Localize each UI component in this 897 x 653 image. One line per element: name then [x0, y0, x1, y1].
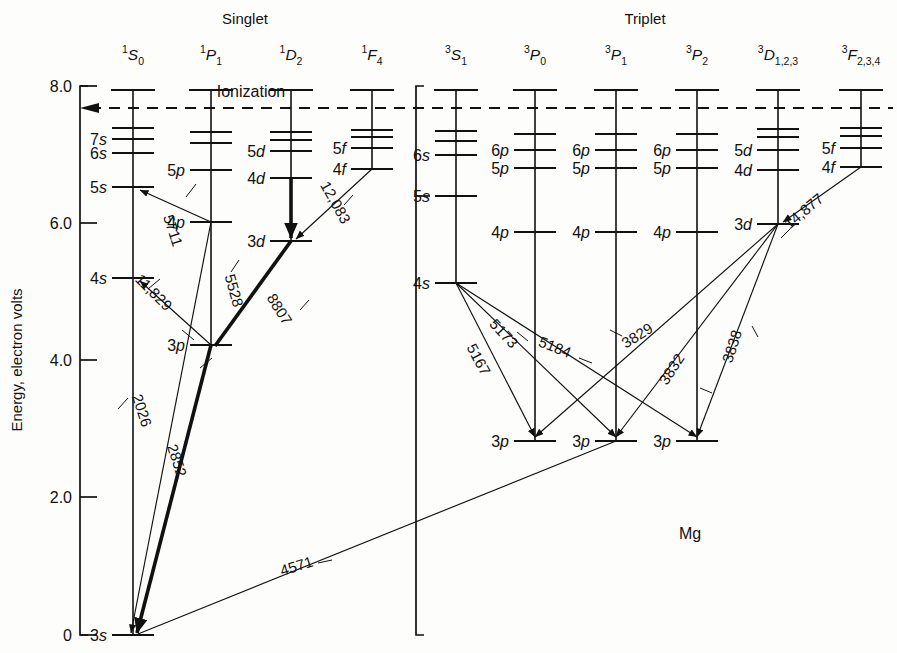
y-tick-label-2: 2.0: [50, 489, 72, 506]
column-header-1F4: 1F4: [361, 43, 382, 67]
y-tick-label-6: 6.0: [50, 215, 72, 232]
wavelength-label-3832: 3832: [655, 350, 687, 387]
level-label-3F234-5f: 5f: [822, 140, 837, 157]
level-label-3P1-3p: 3p: [572, 433, 590, 450]
level-label-3P0-6p: 6p: [491, 142, 509, 159]
column-header-1P1: 1P1: [200, 43, 222, 67]
level-label-3P0-3p: 3p: [491, 433, 509, 450]
level-label-3P1-4p: 4p: [572, 224, 590, 241]
transition-4571: [138, 441, 616, 634]
group-label-singlet: Singlet: [222, 10, 269, 27]
level-label-3P1-5p: 5p: [572, 160, 590, 177]
transition-2852: [137, 345, 211, 633]
level-label-1S0-5s: 5s: [90, 179, 107, 196]
wavelength-label-3838: 3838: [719, 328, 745, 365]
ionization-label: Ionization: [217, 83, 286, 100]
wavelength-label-14877: 14,877: [780, 190, 826, 233]
level-label-1S0-3s: 3s: [90, 627, 107, 644]
wavelength-label-5184: 5184: [536, 333, 573, 361]
column-header-3F234: 3F2,3,4: [842, 43, 881, 67]
wavelength-label-11829: 11,829: [132, 270, 176, 314]
y-tick-label-8: 8.0: [50, 78, 72, 95]
level-label-3P2-6p: 6p: [653, 142, 671, 159]
wavelength-label-4571: 4571: [278, 553, 315, 579]
level-label-3S1-5s: 5s: [413, 188, 430, 205]
level-label-3P0-5p: 5p: [491, 160, 509, 177]
level-label-3P0-4p: 4p: [491, 224, 509, 241]
column-header-3P1: 3P1: [605, 43, 627, 67]
level-label-3P2-3p: 3p: [653, 433, 671, 450]
level-label-3D123-5d: 5d: [734, 142, 753, 159]
transition-3838: [697, 224, 778, 437]
wavelength-labels-layer: 571111,829202628525528880712,08351675173…: [129, 178, 827, 579]
level-label-1D2-3d: 3d: [247, 233, 266, 250]
energy-level-diagram-svg: Singlet Triplet Energy, electron volts 8…: [0, 0, 897, 653]
level-label-3D123-4d: 4d: [734, 162, 753, 179]
wavelength-label-3829: 3829: [618, 319, 655, 351]
level-label-1D2-4d: 4d: [247, 170, 266, 187]
level-label-3P1-6p: 6p: [572, 142, 590, 159]
wavelength-label-5528: 5528: [222, 272, 248, 309]
level-label-3P2-4p: 4p: [653, 224, 671, 241]
grotrian-diagram: Singlet Triplet Energy, electron volts 8…: [0, 0, 897, 653]
y-axis-label: Energy, electron volts: [8, 288, 25, 431]
y-tick-label-4: 4.0: [50, 352, 72, 369]
level-label-3F234-4f: 4f: [822, 159, 837, 176]
level-label-1D2-5d: 5d: [247, 143, 266, 160]
level-label-1F4-5f: 5f: [333, 140, 348, 157]
ionization-limit: [80, 103, 893, 113]
level-label-3S1-4s: 4s: [413, 275, 430, 292]
triplet-axis-bracket: [416, 86, 430, 635]
level-label-3D123-3d: 3d: [734, 216, 753, 233]
level-label-1P1-5p: 5p: [167, 162, 185, 179]
column-header-1S0: 1S0: [122, 43, 144, 67]
column-header-3P0: 3P0: [524, 43, 546, 67]
transition-5167: [456, 283, 535, 437]
transition-5184: [456, 283, 697, 437]
wavelength-label-5167: 5167: [464, 341, 495, 378]
level-label-1F4-4f: 4f: [333, 161, 348, 178]
transition-3829: [535, 224, 778, 437]
level-label-1P1-4p: 4p: [167, 214, 185, 231]
level-label-1P1-3p: 3p: [167, 337, 185, 354]
wavelength-label-5173: 5173: [486, 315, 521, 351]
group-label-triplet: Triplet: [624, 10, 666, 27]
level-label-3P2-5p: 5p: [653, 160, 671, 177]
level-label-3S1-6s: 6s: [413, 147, 430, 164]
ionization-arrow-icon: [80, 103, 99, 113]
column-header-1D2: 1D2: [280, 43, 303, 67]
column-header-3D123: 3D1,2,3: [758, 43, 799, 67]
level-label-1S0-7s: 7s: [90, 131, 107, 148]
column-header-3S1: 3S1: [445, 43, 467, 67]
y-axis: 8.0 6.0 4.0 2.0 0: [50, 78, 97, 644]
element-label: Mg: [679, 525, 701, 542]
column-header-3P2: 3P2: [686, 43, 708, 67]
y-tick-label-0: 0: [63, 627, 72, 644]
wavelength-label-8807: 8807: [264, 290, 296, 327]
wavelength-label-12083: 12,083: [317, 178, 354, 226]
level-label-1S0-4s: 4s: [90, 270, 107, 287]
